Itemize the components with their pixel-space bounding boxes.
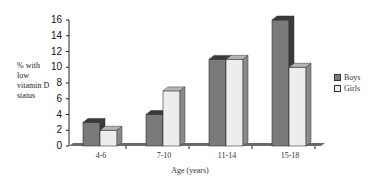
girls-swatch-icon — [334, 85, 341, 92]
bar-boys-15-18 — [272, 20, 289, 146]
bar-boys-11-14 — [209, 59, 226, 146]
bar-chart: % with low vitamin D status 024681012141… — [0, 0, 381, 182]
boys-swatch-icon — [334, 74, 341, 81]
bar-girls-15-18 — [289, 67, 306, 146]
y-tick-label: 12 — [42, 46, 62, 57]
legend-item-girls: Girls — [334, 83, 360, 94]
legend-label: Girls — [344, 84, 360, 93]
y-tick-label: 10 — [42, 61, 62, 72]
bar-boys-7-10 — [146, 115, 163, 147]
bar-girls-4-6 — [100, 130, 117, 146]
y-tick-label: 2 — [42, 124, 62, 135]
legend: Boys Girls — [334, 72, 360, 94]
x-category-label: 15-18 — [270, 151, 310, 160]
y-tick-label: 6 — [42, 93, 62, 104]
y-tick-label: 8 — [42, 77, 62, 88]
legend-label: Boys — [344, 73, 360, 82]
bar-girls-7-10 — [163, 91, 180, 146]
bar-boys-4-6 — [83, 122, 100, 146]
y-tick-label: 16 — [42, 14, 62, 25]
y-tick-label: 14 — [42, 30, 62, 41]
x-axis-label: Age (years) — [160, 166, 220, 175]
bar-girls-11-14 — [226, 59, 243, 146]
legend-item-boys: Boys — [334, 72, 360, 83]
y-tick-label: 4 — [42, 109, 62, 120]
x-category-label: 4-6 — [81, 151, 121, 160]
y-tick-label: 0 — [42, 140, 62, 151]
x-category-label: 7-10 — [144, 151, 184, 160]
x-category-label: 11-14 — [207, 151, 247, 160]
